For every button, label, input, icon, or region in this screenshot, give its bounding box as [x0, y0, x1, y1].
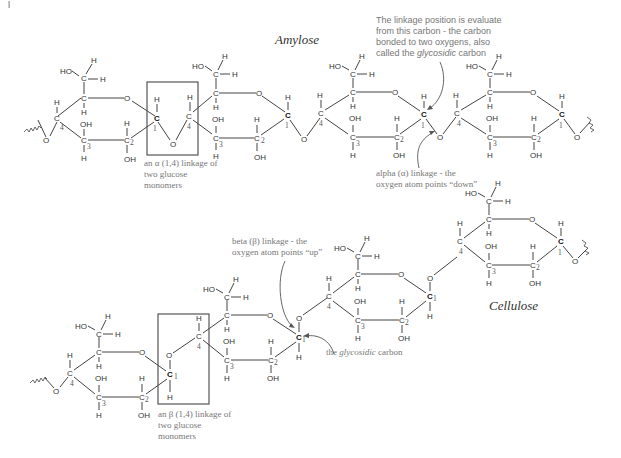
svg-text:O: O: [124, 94, 130, 103]
svg-text:O: O: [572, 257, 578, 266]
svg-text:H: H: [558, 219, 564, 228]
svg-text:C: C: [457, 237, 463, 246]
cellulose-ring-4: C H 4 C C HO H H H O OH: [457, 179, 564, 288]
svg-text:H: H: [196, 314, 202, 323]
svg-text:H: H: [486, 229, 492, 238]
amylose-ring-1: C 4 C C HO H H H H O OH C 3 H C 2 H OH: [50, 56, 155, 164]
arrow-icon: [280, 261, 292, 326]
svg-text:4: 4: [197, 342, 201, 351]
svg-text:H: H: [54, 98, 60, 107]
svg-text:C: C: [224, 293, 230, 302]
svg-text:H: H: [213, 152, 219, 161]
svg-text:H: H: [81, 154, 87, 163]
svg-text:1: 1: [558, 248, 562, 257]
svg-text:H: H: [427, 312, 433, 321]
svg-text:C: C: [81, 94, 87, 103]
svg-text:HO: HO: [60, 67, 72, 76]
svg-text:OH: OH: [223, 337, 235, 346]
svg-text:C: C: [486, 215, 492, 224]
svg-text:H: H: [326, 274, 332, 283]
svg-text:C: C: [67, 369, 73, 378]
svg-text:OH: OH: [349, 114, 361, 123]
svg-text:O: O: [170, 140, 176, 149]
svg-text:C: C: [196, 332, 202, 341]
svg-text:from this carbon - the carbon: from this carbon - the carbon: [376, 26, 491, 36]
svg-text:C: C: [486, 197, 492, 206]
svg-text:H: H: [364, 234, 370, 243]
svg-text:H: H: [81, 108, 87, 117]
svg-text:H: H: [124, 119, 130, 128]
svg-text:O: O: [427, 274, 433, 283]
svg-text:alpha (α) linkage - the: alpha (α) linkage - the: [376, 168, 456, 178]
svg-text:3: 3: [356, 139, 360, 148]
svg-text:O: O: [166, 351, 172, 360]
svg-text:C: C: [254, 134, 260, 143]
svg-text:O: O: [398, 270, 404, 279]
svg-text:OH: OH: [267, 374, 279, 383]
glycosidic-carbon-annotation: the glycosidic carbon: [303, 333, 403, 357]
cellulose-title: Cellulose: [489, 298, 538, 313]
svg-text:OH: OH: [485, 242, 497, 251]
svg-text:H: H: [394, 114, 400, 123]
svg-text:1: 1: [153, 124, 157, 133]
amylose-ring-2: C C HO H H H O OH C 3 H C 2 H OH C H 1: [192, 52, 291, 162]
svg-text:H: H: [453, 91, 459, 100]
svg-text:O: O: [53, 387, 59, 396]
svg-text:OH: OH: [354, 297, 366, 306]
svg-text:H: H: [243, 293, 249, 302]
cellulose-ring-2: C C HO H H H O OH C 3 H C 2 H OH C 1 H: [203, 275, 306, 383]
svg-text:H: H: [487, 102, 493, 111]
svg-text:4: 4: [70, 379, 74, 388]
svg-text:3: 3: [230, 362, 234, 371]
svg-text:4: 4: [187, 122, 191, 131]
svg-text:O: O: [256, 89, 262, 98]
svg-text:two glucose: two glucose: [158, 420, 201, 430]
svg-text:H: H: [187, 93, 193, 102]
svg-text:OH: OH: [212, 115, 224, 124]
beta-box-caption: an β (1,4) linkage of: [158, 409, 231, 419]
svg-text:HO: HO: [466, 62, 478, 71]
svg-text:HO: HO: [75, 322, 87, 331]
svg-text:OH: OH: [254, 153, 266, 162]
svg-text:O: O: [139, 348, 145, 357]
svg-text:H: H: [232, 70, 238, 79]
svg-text:OH: OH: [138, 411, 150, 420]
svg-text:O: O: [574, 133, 580, 142]
svg-text:HO: HO: [465, 189, 477, 198]
svg-text:3: 3: [493, 139, 497, 148]
svg-text:C: C: [213, 89, 219, 98]
svg-text:C: C: [350, 70, 356, 79]
svg-text:3: 3: [87, 142, 91, 151]
svg-text:HO: HO: [203, 285, 215, 294]
svg-text:H: H: [67, 351, 73, 360]
svg-text:the glycosidic carbon: the glycosidic carbon: [326, 347, 403, 357]
svg-text:H: H: [369, 70, 375, 79]
svg-text:C: C: [81, 74, 87, 83]
svg-text:C: C: [350, 88, 356, 97]
svg-text:H: H: [154, 95, 160, 104]
svg-text:H: H: [317, 91, 323, 100]
svg-text:H: H: [100, 75, 106, 84]
svg-text:C: C: [559, 110, 565, 119]
svg-text:H: H: [213, 103, 219, 112]
svg-text:H: H: [96, 411, 102, 420]
svg-text:H: H: [224, 325, 230, 334]
svg-text:1: 1: [285, 121, 289, 130]
svg-text:2: 2: [536, 263, 540, 272]
svg-text:H: H: [350, 102, 356, 111]
cellulose-chain: Cellulose O C H 4 C C: [30, 179, 589, 441]
amylose-title: Amylose: [274, 32, 319, 47]
svg-text:3: 3: [102, 399, 106, 408]
svg-text:2: 2: [261, 136, 265, 145]
svg-text:OH: OH: [529, 279, 541, 288]
svg-text:H: H: [115, 330, 121, 339]
svg-text:bonded to two oxygens, also: bonded to two oxygens, also: [376, 37, 490, 47]
svg-text:H: H: [530, 242, 536, 251]
svg-text:H: H: [496, 52, 502, 61]
svg-text:4: 4: [327, 302, 331, 311]
svg-text:4: 4: [457, 119, 461, 128]
svg-text:H: H: [296, 353, 302, 362]
svg-text:monomers: monomers: [144, 180, 182, 190]
svg-text:2: 2: [145, 395, 149, 404]
svg-text:H: H: [355, 334, 361, 343]
